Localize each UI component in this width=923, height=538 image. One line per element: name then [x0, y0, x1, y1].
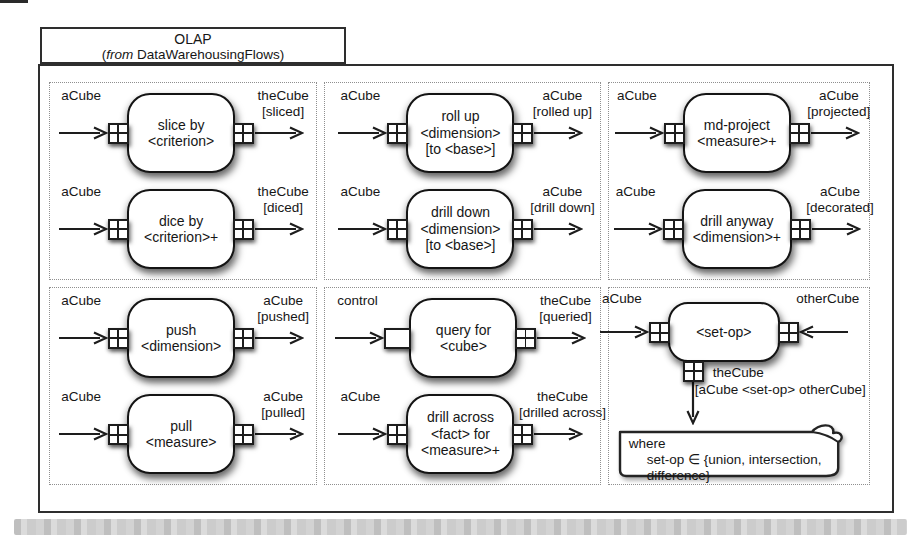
object-pin-icon [233, 123, 254, 144]
action-box: drill across <fact> for <measure>+ [406, 394, 514, 474]
node-dice-by: aCube dice by <criterion>+ theCube [dice… [50, 181, 316, 277]
cell-rollup-drilldown: aCube roll up <dimension> [to <base>] aC… [324, 82, 600, 280]
note: where set-op ∈ {union, intersection, dif… [617, 422, 866, 480]
node-set-op: aCube <set-op> otherCube [609, 288, 869, 376]
flow-arrow-icon [334, 330, 384, 346]
action-box: push <dimension> [127, 298, 235, 378]
cell-setop: aCube <set-op> otherCube theCube [aCube … [608, 287, 870, 485]
cell-query-drillacross: control query for <cube> theCube [querie… [324, 287, 600, 485]
action-label: <measure>+ [421, 442, 500, 459]
action-box: pull <measure> [127, 394, 235, 474]
flow-arrow-icon [58, 330, 108, 346]
output-label: aCube [rolled up] [533, 88, 592, 119]
output-label: aCube [pulled] [261, 389, 305, 420]
flow-arrow-icon [58, 125, 108, 141]
action-label: <criterion> [148, 133, 214, 150]
input-label: control [337, 293, 378, 309]
object-pin-icon [789, 123, 810, 144]
note-text: where set-op ∈ {union, intersection, dif… [629, 436, 866, 484]
flow-arrow-icon [810, 125, 860, 141]
node-slice-by: aCube slice by <criterion> theCube [slic… [50, 85, 316, 181]
flow-arrow-icon [533, 125, 583, 141]
node-drill-down: aCube drill down <dimension> [to <base>]… [325, 181, 599, 277]
flow-arrow-icon [811, 221, 861, 237]
input-label: aCube [616, 184, 656, 200]
object-pin-icon [387, 424, 408, 445]
output-label: [aCube <set-op> otherCube] [695, 382, 866, 397]
action-box: drill anyway <dimension>+ [682, 189, 792, 269]
input-label: aCube [341, 88, 381, 104]
action-box: query for <cube> [409, 298, 517, 378]
action-label: roll up [441, 108, 479, 125]
package-subtitle: (from DataWarehousingFlows) [42, 47, 344, 63]
action-box: md-project <measure>+ [683, 93, 791, 173]
action-label: drill across [427, 409, 494, 426]
object-pin-icon [683, 361, 704, 382]
package-tab: OLAP (from DataWarehousingFlows) [40, 27, 346, 64]
action-label: drill down [431, 204, 490, 221]
cell-mdproject-drillanyway: aCube md-project <measure>+ aCube [proje… [608, 82, 870, 280]
action-label: [to <base>] [425, 141, 495, 158]
object-pin-icon [649, 322, 670, 343]
flow-arrow-icon [614, 125, 664, 141]
flow-arrow-icon [533, 426, 583, 442]
flow-arrow-icon [533, 221, 583, 237]
node-pull: aCube pull <measure> aCube [pulled] [50, 386, 316, 482]
object-pin-icon [233, 328, 254, 349]
object-pin-icon [790, 219, 811, 240]
object-pin-icon [663, 219, 684, 240]
input-label: aCube [617, 88, 657, 104]
action-label: <measure>+ [697, 133, 776, 150]
output-label: aCube [drill down] [530, 184, 595, 215]
action-label: <dimension> [420, 221, 500, 238]
flow-arrow-icon [254, 221, 304, 237]
action-label: query for [436, 322, 491, 339]
action-box: drill down <dimension> [to <base>] [406, 189, 514, 269]
output-label: theCube [queried] [539, 293, 592, 324]
action-label: [to <base>] [425, 237, 495, 254]
flow-arrow-icon [58, 426, 108, 442]
flow-arrow-icon [337, 426, 387, 442]
object-pin-icon [512, 219, 533, 240]
object-pin-icon [233, 424, 254, 445]
action-label: <criterion>+ [144, 229, 218, 246]
node-drill-across: aCube drill across <fact> for <measure>+… [325, 386, 599, 482]
object-pin-icon [512, 123, 533, 144]
flow-arrow-icon [58, 221, 108, 237]
object-pin-icon [387, 219, 408, 240]
action-label: <dimension>+ [693, 229, 781, 246]
input-label: aCube [61, 88, 101, 104]
action-label: md-project [704, 117, 770, 134]
flow-arrow-icon [599, 324, 649, 340]
output-label: aCube [pushed] [257, 293, 309, 324]
node-drill-anyway: aCube drill anyway <dimension>+ aCube [d… [609, 181, 869, 277]
action-label: dice by [159, 213, 203, 230]
action-label: slice by [158, 117, 205, 134]
object-pin-icon [512, 424, 533, 445]
flow-arrow-icon [254, 125, 304, 141]
object-pin-icon [387, 123, 408, 144]
object-pin-icon [664, 123, 685, 144]
object-pin-icon [108, 123, 129, 144]
object-pin-icon [108, 424, 129, 445]
action-label: <cube> [440, 338, 487, 355]
node-roll-up: aCube roll up <dimension> [to <base>] aC… [325, 85, 599, 181]
flow-arrow-left-icon [799, 324, 849, 340]
input-label: aCube [341, 389, 381, 405]
action-label: pull [170, 418, 192, 435]
flow-arrow-icon [254, 426, 304, 442]
flow-arrow-icon [613, 221, 663, 237]
object-pin-icon [778, 322, 799, 343]
cell-slice-dice: aCube slice by <criterion> theCube [slic… [49, 82, 317, 280]
scan-artifact-line [0, 0, 28, 3]
node-push: aCube push <dimension> aCube [pushed] [50, 290, 316, 386]
action-box: <set-op> [668, 302, 780, 362]
action-box: roll up <dimension> [to <base>] [406, 93, 514, 173]
input-label: otherCube [796, 291, 859, 307]
input-label: aCube [61, 184, 101, 200]
flow-arrow-icon [254, 330, 304, 346]
diagram-canvas: OLAP (from DataWarehousingFlows) aCube s… [0, 0, 923, 538]
package-title: OLAP [42, 31, 344, 47]
input-label: aCube [61, 293, 101, 309]
control-pin-icon [384, 328, 411, 349]
